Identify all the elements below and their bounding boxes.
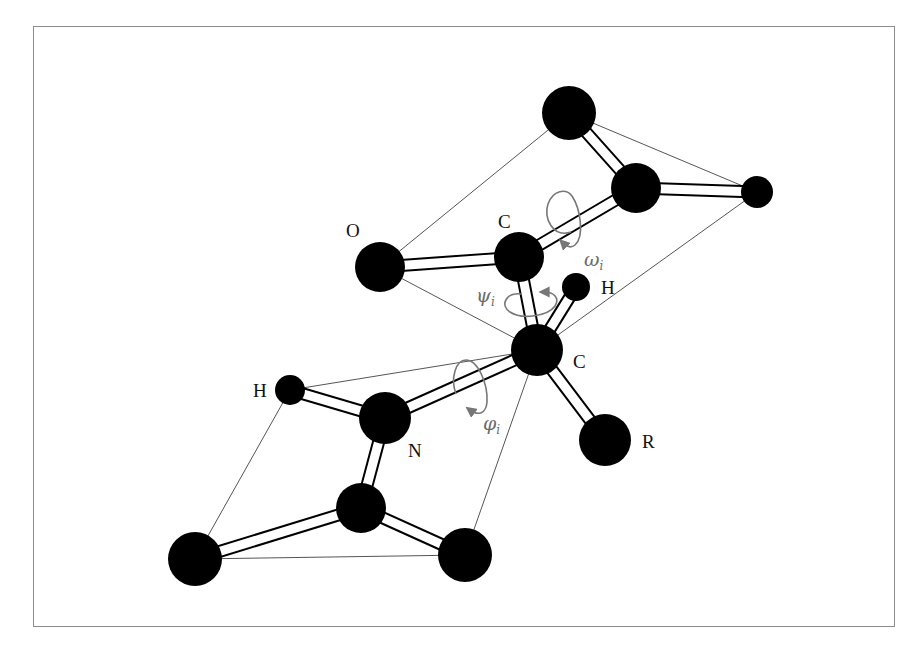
label-carbonyl-carbon: C [498,211,511,232]
label-alpha-carbon: C [573,351,586,372]
atom-sidechain-r [579,414,631,466]
label-alpha-hydrogen: H [601,277,615,298]
atom-top [542,86,596,140]
label-oxygen: O [346,220,360,241]
bonds [195,113,757,559]
label-nitrogen: N [408,440,422,461]
atom-bottom-right [438,528,492,582]
label-omega: ωi [584,248,604,273]
atom-alpha-carbon [511,324,563,376]
atom-amide-hydrogen [275,375,305,405]
label-phi: φi [483,412,500,437]
label-sidechain-r: R [642,431,655,452]
atom-right [741,176,773,208]
atom-carbonyl-carbon [494,232,544,282]
peptide-diagram: O C H C H N R ωi ψi φi [0,0,923,648]
atom-nitrogen [359,392,411,444]
label-psi: ψi [476,284,495,309]
atom-top-carbon [611,163,661,213]
atom-alpha-hydrogen [562,273,590,301]
atom-bottom-left [168,532,222,586]
atom-oxygen [355,242,405,292]
label-amide-hydrogen: H [253,380,267,401]
peptide-planes [195,113,757,559]
atom-lower-carbon [336,483,386,533]
